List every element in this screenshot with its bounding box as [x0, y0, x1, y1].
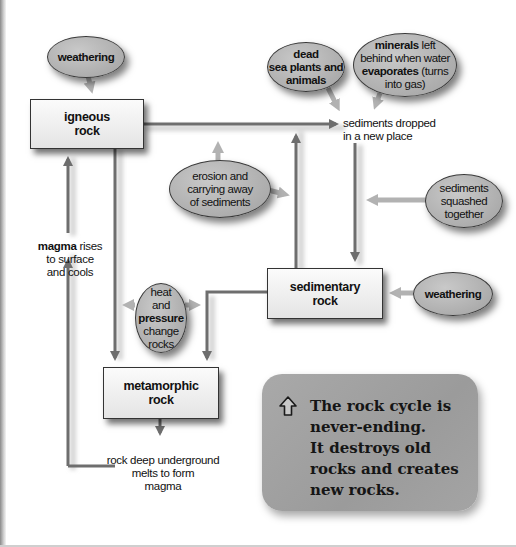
erosion-line3: of sediments	[187, 196, 253, 209]
sedimentary-label-line2: rock	[290, 294, 360, 308]
dead-sea-line1: dead	[269, 48, 343, 61]
igneous-rock-box: igneous rock	[30, 99, 144, 149]
rock-deep-line3: magma	[100, 480, 226, 493]
heat-line5: rocks	[138, 338, 183, 351]
rock-deep-line2: melts to form	[100, 467, 226, 480]
metamorphic-rock-box: metamorphic rock	[103, 367, 219, 419]
rock-deep-line1: rock deep underground	[100, 454, 226, 467]
sediments-dropped-label: sediments dropped in a new place	[343, 117, 453, 143]
weathering-right-text: weathering	[425, 288, 482, 301]
callout-line4: rocks and creates	[310, 459, 478, 480]
callout-line3: It destroys old	[310, 438, 478, 459]
weathering-top-text: weathering	[58, 51, 115, 64]
dead-sea-line2: sea plants and	[269, 61, 343, 74]
sediments-dropped-line1: sediments dropped	[343, 117, 453, 130]
heat-line4: change	[138, 325, 183, 338]
callout-text: The rock cycle is never-ending. It destr…	[310, 396, 478, 501]
evaporates-bold: evaporates	[362, 65, 419, 77]
sedimentary-label-line1: sedimentary	[290, 280, 360, 294]
minerals-line4: into gas)	[360, 78, 450, 91]
weathering-bubble-right: weathering	[413, 272, 493, 316]
sediments-squashed-bubble: sediments squashed together	[425, 174, 503, 228]
erosion-bubble: erosion and carrying away of sediments	[169, 160, 271, 218]
igneous-label-line1: igneous	[64, 110, 110, 124]
magma-line2: to surface	[30, 253, 110, 266]
heat-line2: and	[138, 299, 183, 312]
erosion-line1: erosion and	[187, 170, 253, 183]
squashed-line2: squashed	[440, 195, 489, 208]
heat-line1: heat	[138, 286, 183, 299]
sediments-dropped-line2: in a new place	[343, 130, 453, 143]
metamorphic-label-line1: metamorphic	[123, 379, 198, 393]
dead-sea-plants-bubble: dead sea plants and animals	[267, 42, 345, 92]
minerals-line2: behind when water	[360, 52, 450, 65]
magma-rises-label: magma rises to surface and cools	[30, 240, 110, 279]
metamorphic-label-line2: rock	[123, 393, 198, 407]
magma-line3: and cools	[30, 266, 110, 279]
magma-bold: magma	[38, 240, 77, 252]
magma-rest: rises	[77, 240, 103, 252]
minerals-rest3: (turns	[418, 65, 448, 77]
igneous-label-line2: rock	[64, 124, 110, 138]
pressure-bold: pressure	[138, 312, 183, 324]
squashed-line1: sediments	[440, 182, 489, 195]
squashed-line3: together	[440, 208, 489, 221]
weathering-bubble-top: weathering	[47, 36, 125, 78]
callout-box: The rock cycle is never-ending. It destr…	[262, 374, 478, 511]
rock-deep-underground-label: rock deep underground melts to form magm…	[100, 454, 226, 493]
up-arrow-icon	[279, 396, 297, 416]
sedimentary-rock-box: sedimentary rock	[267, 268, 383, 319]
callout-line1: The rock cycle is	[310, 396, 478, 417]
heat-pressure-bubble: heat and pressure change rocks	[135, 283, 187, 353]
dead-sea-line3: animals	[269, 74, 343, 87]
callout-line2: never-ending.	[310, 417, 478, 438]
minerals-rest: left	[419, 39, 436, 51]
erosion-line2: carrying away	[187, 183, 253, 196]
callout-line5: new rocks.	[310, 480, 478, 501]
minerals-bubble: minerals left behind when water evaporat…	[353, 33, 457, 97]
minerals-bold: minerals	[375, 39, 419, 51]
